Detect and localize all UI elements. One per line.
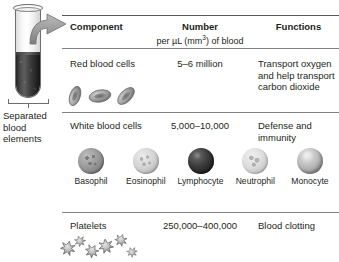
row-white-blood-cells-number: 5,000–10,000 bbox=[148, 120, 252, 132]
packed-cells-layer bbox=[16, 52, 40, 98]
row-platelets-component: Platelets bbox=[70, 220, 148, 232]
header-bottom-rule bbox=[62, 48, 339, 49]
header-number: Number bbox=[148, 21, 252, 32]
header-number-sub-a: per µL (mm bbox=[156, 36, 202, 46]
wbc-item-lymphocyte: Lymphocyte bbox=[174, 148, 228, 192]
header-functions: Functions bbox=[258, 21, 339, 32]
row-white-blood-cells-functions: Defense and immunity bbox=[258, 120, 339, 143]
basophil-label: Basophil bbox=[64, 176, 118, 186]
test-tube-rim-inner bbox=[16, 7, 40, 12]
row-platelets-functions: Blood clotting bbox=[258, 220, 339, 232]
wbc-item-eosinophil: Eosinophil bbox=[119, 148, 173, 192]
eosinophil-cell-icon bbox=[133, 148, 159, 174]
white-blood-cell-gallery: Basophil Eosinophil Lymphocyte Neutrophi… bbox=[62, 148, 339, 192]
header-number-sub-b: ) of blood bbox=[206, 36, 244, 46]
measurement-bracket-icon bbox=[8, 99, 49, 108]
row-platelets-number: 250,000–400,000 bbox=[148, 220, 252, 232]
lymphocyte-cell-icon bbox=[188, 148, 214, 174]
basophil-cell-icon bbox=[78, 148, 104, 174]
neutrophil-cell-icon bbox=[242, 148, 268, 174]
wbc-item-neutrophil: Neutrophil bbox=[228, 148, 282, 192]
header-number-subtitle: per µL (mm3) of blood bbox=[148, 32, 252, 47]
blood-components-table: Component Number per µL (mm3) of blood F… bbox=[62, 0, 339, 262]
monocyte-cell-icon bbox=[297, 148, 323, 174]
header-component: Component bbox=[70, 21, 148, 32]
lymphocyte-label: Lymphocyte bbox=[174, 176, 228, 186]
monocyte-label: Monocyte bbox=[283, 176, 337, 186]
platelet-icon bbox=[58, 232, 158, 258]
row-red-blood-cells-functions: Transport oxygen and help transport carb… bbox=[258, 58, 339, 93]
wbc-item-monocyte: Monocyte bbox=[283, 148, 337, 192]
tube-caption-label: Separated blood elements bbox=[3, 110, 61, 145]
red-blood-cell-icon bbox=[66, 84, 142, 108]
header-number-group: Number per µL (mm3) of blood bbox=[148, 21, 252, 47]
row-divider-wbc-platelets bbox=[62, 212, 339, 213]
row-divider-rbc-wbc bbox=[62, 112, 339, 113]
table-top-rule bbox=[62, 15, 339, 16]
wbc-item-basophil: Basophil bbox=[64, 148, 118, 192]
row-red-blood-cells-number: 5–6 million bbox=[148, 58, 252, 70]
neutrophil-label: Neutrophil bbox=[228, 176, 282, 186]
row-red-blood-cells-component: Red blood cells bbox=[70, 58, 148, 70]
eosinophil-label: Eosinophil bbox=[119, 176, 173, 186]
separated-blood-illustration: Separated blood elements bbox=[0, 0, 62, 262]
row-white-blood-cells-component: White blood cells bbox=[70, 120, 148, 132]
